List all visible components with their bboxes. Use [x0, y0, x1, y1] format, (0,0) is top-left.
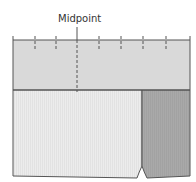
diagram-canvas: Midpoint: [0, 0, 196, 182]
lower-right-panel: [142, 90, 190, 178]
diagram-svg: [0, 0, 196, 182]
midpoint-label: Midpoint: [58, 13, 101, 24]
upper-band: [13, 40, 190, 90]
lower-left-panel: [13, 90, 142, 178]
